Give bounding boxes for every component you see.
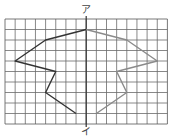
axis-bottom-label: イ: [81, 127, 91, 137]
grid-figure: [0, 0, 171, 138]
axis-top-label: ア: [81, 5, 91, 15]
symmetry-diagram: ア イ: [0, 0, 171, 138]
